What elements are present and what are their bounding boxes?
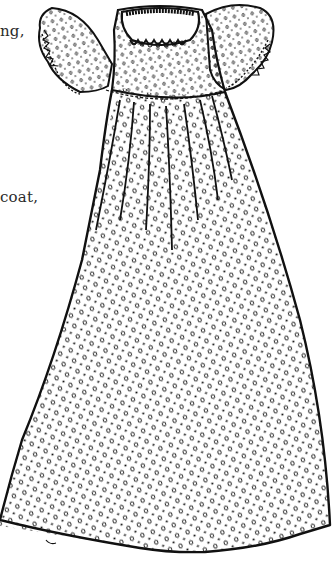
hem-detail [46,540,56,544]
left-sleeve [39,8,112,94]
christening-gown-illustration [0,0,336,570]
scalloped-collar [122,8,199,47]
